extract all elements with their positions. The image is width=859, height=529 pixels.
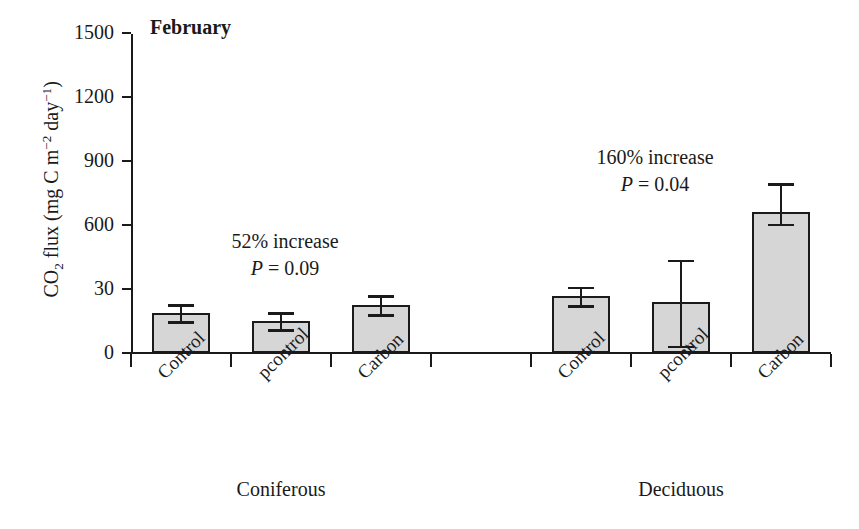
bar-deciduous-carbon[interactable] — [752, 212, 810, 353]
y-tick-label: 1500 — [24, 22, 114, 42]
annotation-deciduous: 160% increase P = 0.04 — [565, 144, 745, 198]
error-bar-cap-upper — [168, 304, 194, 307]
y-axis-line — [131, 34, 133, 354]
error-bar-cap-lower — [368, 314, 394, 317]
y-tick-label: 600 — [24, 214, 114, 234]
error-bar-cap-upper — [768, 183, 794, 186]
error-bar-cap-upper — [268, 312, 294, 315]
y-tick-mark — [122, 288, 131, 290]
error-bar-cap-upper — [568, 287, 594, 290]
y-tick-label: 900 — [24, 150, 114, 170]
y-axis-title-sup1: −2 — [39, 136, 54, 150]
y-tick-label: 0 — [24, 342, 114, 362]
error-bar-stem — [580, 287, 583, 305]
annotation-coniferous-pvalue: P = 0.09 — [205, 255, 365, 282]
p-value-text: = 0.04 — [633, 173, 689, 195]
x-tick-mark — [530, 354, 532, 367]
p-symbol: P — [621, 173, 633, 195]
x-tick-mark — [730, 354, 732, 367]
y-axis-title-sub: 2 — [51, 263, 66, 270]
x-tick-mark — [830, 354, 832, 367]
annotation-coniferous: 52% increase P = 0.09 — [205, 228, 365, 282]
error-bar-cap-lower — [768, 224, 794, 227]
y-tick-label: 1200 — [24, 86, 114, 106]
panel-title: February — [150, 16, 231, 39]
y-tick-mark — [122, 160, 131, 162]
x-tick-mark — [430, 354, 432, 367]
group-label-coniferous: Coniferous — [191, 478, 371, 501]
group-label-deciduous: Deciduous — [591, 478, 771, 501]
y-tick-mark — [122, 224, 131, 226]
error-bar-cap-upper — [668, 260, 694, 263]
error-bar-stem — [680, 260, 683, 346]
annotation-deciduous-increase: 160% increase — [565, 144, 745, 171]
x-tick-mark — [130, 354, 132, 367]
x-axis-line — [131, 352, 831, 354]
annotation-deciduous-pvalue: P = 0.04 — [565, 171, 745, 198]
y-axis-title: CO2 flux (mg C m−2 day−1) — [39, 24, 68, 354]
error-bar-cap-lower — [568, 305, 594, 308]
y-axis-title-mid2: day — [40, 102, 62, 136]
y-tick-mark — [122, 96, 131, 98]
error-bar-stem — [380, 295, 383, 314]
figure-canvas: February CO2 flux (mg C m−2 day−1) 03060… — [0, 0, 859, 529]
error-bar-cap-lower — [168, 321, 194, 324]
y-tick-mark — [122, 32, 131, 34]
error-bar-stem — [780, 183, 783, 224]
x-tick-mark — [630, 354, 632, 367]
annotation-coniferous-increase: 52% increase — [205, 228, 365, 255]
x-tick-mark — [330, 354, 332, 367]
p-value-text: = 0.09 — [263, 257, 319, 279]
error-bar-cap-upper — [368, 295, 394, 298]
x-tick-mark — [230, 354, 232, 367]
y-tick-label: 30 — [24, 278, 114, 298]
p-symbol: P — [251, 257, 263, 279]
